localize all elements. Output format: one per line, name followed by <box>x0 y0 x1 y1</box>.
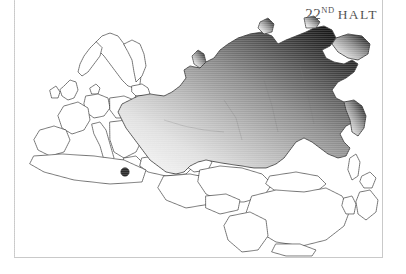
country-ireland <box>50 86 60 98</box>
country-iberia <box>34 126 70 156</box>
map-container <box>14 0 382 257</box>
island-sakhalin <box>348 154 360 180</box>
country-denmark <box>90 84 100 94</box>
country-india <box>224 212 268 252</box>
country-japan-main <box>356 190 378 220</box>
island-new-siberian <box>304 16 320 28</box>
country-southeast <box>272 244 316 256</box>
region-chukotka <box>332 34 370 60</box>
city-marker <box>121 168 129 176</box>
eurasia-map <box>14 0 382 257</box>
russia-layer <box>118 16 370 174</box>
map-figure: 22NDHALT <box>0 0 406 274</box>
frame-rule-bottom <box>14 257 383 258</box>
island-severnaya-zemlya <box>258 18 274 34</box>
country-russia <box>118 26 358 174</box>
country-british-isles <box>60 80 78 100</box>
frame-rule-right <box>382 0 383 258</box>
country-japan-north <box>360 172 376 188</box>
country-norway-coast <box>78 42 102 76</box>
